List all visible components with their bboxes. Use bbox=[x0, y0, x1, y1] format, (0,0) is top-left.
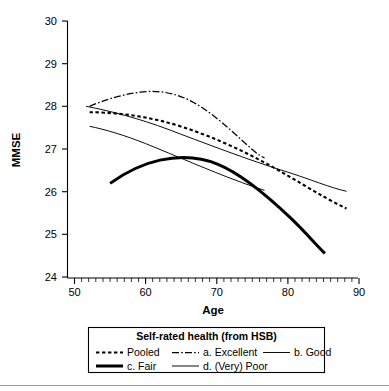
x-tick-label-70: 70 bbox=[211, 286, 223, 298]
legend-item-c-fair[interactable]: c. Fair bbox=[96, 360, 157, 372]
x-tick-label-80: 80 bbox=[282, 286, 294, 298]
y-tick-label-26: 26 bbox=[45, 186, 57, 198]
legend-item-b-good[interactable]: b. Good bbox=[263, 346, 332, 358]
mmse-age-line-chart: 30 29 28 27 26 25 24 bbox=[0, 0, 389, 391]
x-tick-label-50: 50 bbox=[68, 286, 80, 298]
legend-label-b-good: b. Good bbox=[294, 346, 332, 358]
legend-label-d-very-poor: d. (Very) Poor bbox=[203, 360, 268, 372]
y-tick-label-30: 30 bbox=[45, 15, 57, 27]
x-axis-ticks: 50 60 70 80 90 bbox=[68, 278, 365, 298]
legend-label-pooled: Pooled bbox=[127, 346, 160, 358]
legend: Self-rated health (from HSB) Pooled a. E… bbox=[89, 328, 332, 373]
y-tick-label-24: 24 bbox=[45, 271, 57, 283]
y-axis-title: MMSE bbox=[10, 132, 22, 167]
legend-label-c-fair: c. Fair bbox=[127, 360, 157, 372]
y-tick-label-28: 28 bbox=[45, 100, 57, 112]
series-line-c-fair bbox=[110, 158, 325, 254]
x-tick-label-90: 90 bbox=[353, 286, 365, 298]
y-axis-ticks: 30 29 28 27 26 25 24 bbox=[45, 15, 68, 283]
y-tick-label-25: 25 bbox=[45, 228, 57, 240]
chart-figure: 30 29 28 27 26 25 24 bbox=[0, 0, 389, 391]
series-line-b-good bbox=[86, 106, 346, 191]
legend-title: Self-rated health (from HSB) bbox=[136, 330, 277, 342]
x-tick-label-60: 60 bbox=[139, 286, 151, 298]
y-tick-label-27: 27 bbox=[45, 143, 57, 155]
series-line-pooled bbox=[90, 112, 347, 208]
legend-item-d-very-poor[interactable]: d. (Very) Poor bbox=[172, 360, 268, 372]
series-curves bbox=[86, 91, 346, 253]
legend-item-pooled[interactable]: Pooled bbox=[96, 346, 160, 358]
legend-item-a-excellent[interactable]: a. Excellent bbox=[172, 346, 257, 358]
x-axis-title: Age bbox=[202, 304, 224, 316]
y-tick-label-29: 29 bbox=[45, 58, 57, 70]
series-line-a-excellent bbox=[90, 91, 265, 157]
legend-label-a-excellent: a. Excellent bbox=[203, 346, 257, 358]
axes-group bbox=[68, 21, 359, 278]
